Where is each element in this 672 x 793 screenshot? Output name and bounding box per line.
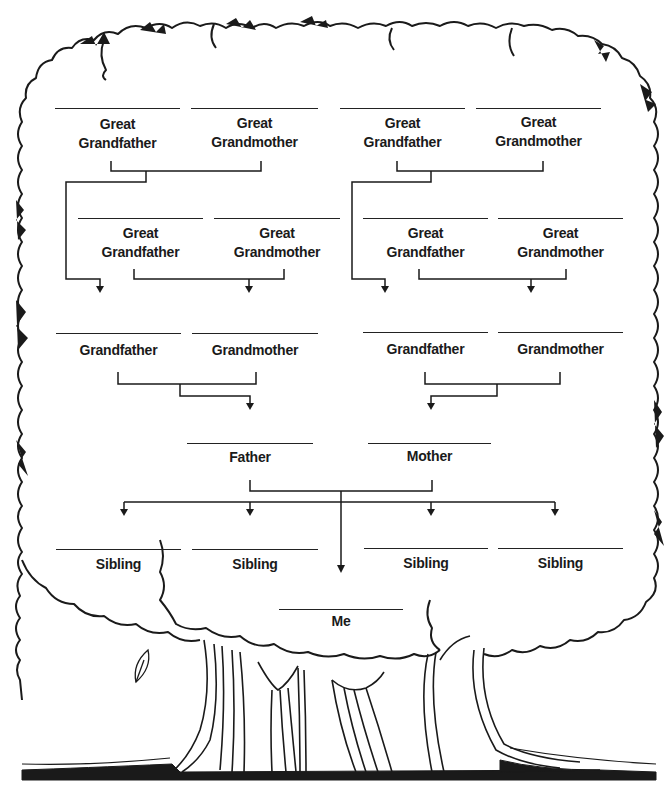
arrowheads [96, 286, 559, 573]
name-blank-ggf1[interactable] [55, 108, 180, 109]
label-line1: Great [363, 224, 488, 243]
name-blank-ggm3[interactable] [214, 218, 340, 219]
label-grandfather: Grandfather [56, 341, 181, 360]
label-line2: Grandmother [498, 243, 623, 262]
name-blank-sibling-2[interactable] [192, 549, 318, 550]
name-blank-father[interactable] [187, 443, 313, 444]
label-line1: Great [55, 115, 180, 134]
name-blank-ggm4[interactable] [498, 218, 623, 219]
label-line1: Great [191, 114, 318, 133]
connector-lines [66, 161, 566, 566]
name-blank-mother[interactable] [368, 443, 491, 444]
ground [22, 760, 656, 780]
label-line1: Great [78, 224, 203, 243]
label-line1: Great [214, 224, 340, 243]
name-blank-ggf4[interactable] [363, 218, 488, 219]
label-line2: Grandfather [55, 134, 180, 153]
name-blank-gm2[interactable] [498, 332, 623, 333]
name-blank-ggm1[interactable] [191, 108, 318, 109]
label-grandfather: Grandfather [363, 340, 488, 359]
label-line1: Great [498, 224, 623, 243]
label-line2: Grandmother [214, 243, 340, 262]
name-blank-sibling-1[interactable] [56, 549, 181, 550]
tree-crown-shading [16, 16, 664, 546]
label-line2: Grandfather [363, 243, 488, 262]
label-great-grandfather: Great Grandfather [363, 224, 488, 262]
leaf-icon [135, 650, 149, 682]
label-sibling: Sibling [364, 554, 488, 573]
label-great-grandmother: Great Grandmother [191, 114, 318, 152]
name-blank-ggf3[interactable] [78, 218, 203, 219]
label-sibling: Sibling [192, 555, 318, 574]
label-great-grandfather: Great Grandfather [340, 114, 465, 152]
label-line1: Great [476, 113, 601, 132]
label-line2: Grandfather [78, 243, 203, 262]
label-grandmother: Grandmother [498, 340, 623, 359]
label-great-grandmother: Great Grandmother [476, 113, 601, 151]
label-great-grandfather: Great Grandfather [78, 224, 203, 262]
label-line2: Grandfather [340, 133, 465, 152]
label-line2: Grandmother [476, 132, 601, 151]
name-blank-gm1[interactable] [192, 333, 318, 334]
name-blank-sibling-4[interactable] [498, 548, 623, 549]
label-sibling: Sibling [498, 554, 623, 573]
label-great-grandmother: Great Grandmother [498, 224, 623, 262]
name-blank-ggf2[interactable] [340, 108, 465, 109]
label-great-grandfather: Great Grandfather [55, 115, 180, 153]
name-blank-sibling-3[interactable] [364, 548, 488, 549]
name-blank-ggm2[interactable] [476, 108, 601, 109]
label-mother: Mother [368, 447, 491, 466]
name-blank-me[interactable] [279, 609, 403, 610]
name-blank-gf1[interactable] [56, 333, 181, 334]
family-tree-diagram: Great Grandfather Great Grandmother Grea… [0, 0, 672, 793]
label-sibling: Sibling [56, 555, 181, 574]
label-me: Me [279, 612, 403, 631]
label-father: Father [187, 448, 313, 467]
label-line1: Great [340, 114, 465, 133]
label-line2: Grandmother [191, 133, 318, 152]
label-grandmother: Grandmother [192, 341, 318, 360]
label-great-grandmother: Great Grandmother [214, 224, 340, 262]
name-blank-gf2[interactable] [363, 332, 488, 333]
